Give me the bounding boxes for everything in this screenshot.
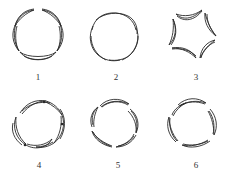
figure-label: 5 xyxy=(108,160,128,170)
junction-dot xyxy=(24,144,27,147)
figure-label: 4 xyxy=(29,160,49,170)
figure-3: 3 xyxy=(152,0,228,87)
figure-6: 6 xyxy=(152,87,228,174)
figure-5: 5 xyxy=(76,87,152,174)
figure-label: 6 xyxy=(186,160,206,170)
figure-1: 1 xyxy=(0,0,76,87)
figure-2: 2 xyxy=(76,0,152,87)
junction-dot xyxy=(61,123,64,126)
figure-4: 4 xyxy=(0,87,76,174)
figure-label: 1 xyxy=(28,72,48,82)
junction-dot xyxy=(43,101,46,104)
figure-label: 3 xyxy=(186,72,206,82)
figure-label: 2 xyxy=(106,72,126,82)
